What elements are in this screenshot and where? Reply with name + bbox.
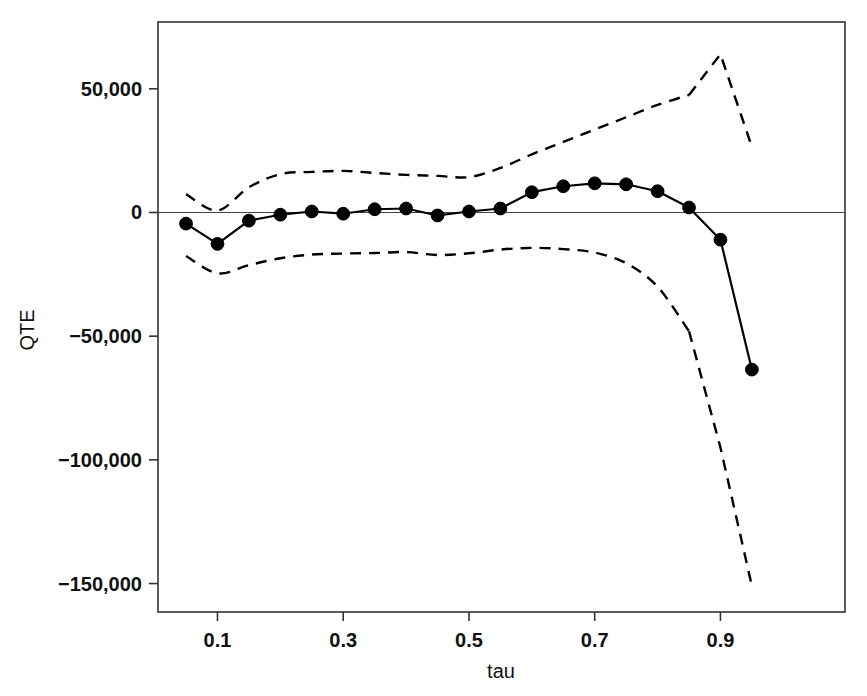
y-tick-label: 0 — [131, 201, 142, 223]
x-tick-label: 0.9 — [707, 629, 735, 651]
qte-data-point — [525, 186, 538, 199]
qte-data-point — [431, 209, 444, 222]
qte-data-point — [180, 217, 193, 230]
qte-data-point — [274, 208, 287, 221]
qte-data-point — [651, 185, 664, 198]
x-axis-ticks: 0.10.30.50.70.9 — [204, 612, 735, 651]
x-axis-title: tau — [487, 660, 515, 682]
qte-data-point — [305, 205, 318, 218]
qte-quantile-treatment-effect-plot: 50,0000−50,000−100,000−150,000 0.10.30.5… — [0, 0, 867, 696]
qte-data-point — [714, 233, 727, 246]
qte-data-point — [243, 214, 256, 227]
x-tick-label: 0.5 — [455, 629, 483, 651]
y-tick-label: 50,000 — [81, 78, 142, 100]
y-tick-label: −50,000 — [69, 325, 142, 347]
x-tick-label: 0.1 — [204, 629, 232, 651]
qte-data-point — [588, 177, 601, 190]
qte-data-point — [337, 207, 350, 220]
x-tick-label: 0.3 — [329, 629, 357, 651]
y-axis-title: QTE — [16, 309, 38, 350]
y-axis-ticks: 50,0000−50,000−100,000−150,000 — [58, 78, 158, 595]
chart-figure: 50,0000−50,000−100,000−150,000 0.10.30.5… — [0, 0, 867, 696]
qte-data-point — [400, 202, 413, 215]
plot-frame — [158, 22, 845, 612]
qte-data-point — [494, 202, 507, 215]
qte-data-point — [620, 178, 633, 191]
qte-data-point — [683, 201, 696, 214]
x-tick-label: 0.7 — [581, 629, 609, 651]
qte-data-point — [368, 203, 381, 216]
y-tick-label: −100,000 — [58, 449, 142, 471]
qte-data-point — [557, 180, 570, 193]
qte-data-point — [463, 205, 476, 218]
qte-data-point — [211, 238, 224, 251]
qte-data-point — [745, 363, 758, 376]
y-tick-label: −150,000 — [58, 573, 142, 595]
